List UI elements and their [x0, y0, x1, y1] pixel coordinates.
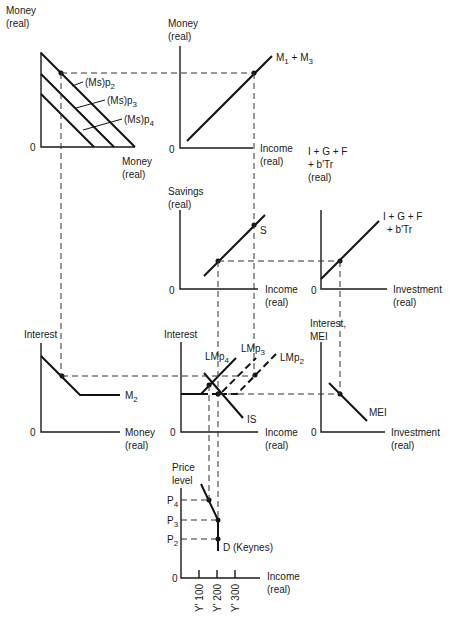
axes [180, 210, 258, 289]
y-axis-label: Interest, [310, 318, 346, 329]
origin-label: 0 [30, 427, 36, 438]
lm-p2-point [253, 373, 258, 378]
y-axis-label: Price [172, 462, 195, 473]
panel-aggregate-demand: Price level 0 Income (real) Y' 100 Y' 20… [167, 462, 300, 612]
connecting-guides [61, 73, 340, 520]
curve-label-mei: MEI [369, 407, 387, 418]
axes [321, 342, 385, 432]
curve-label-ms-p2: (Ms)p2 [85, 77, 116, 91]
panel-money-supply: Money (real) 0 Money (real) (Ms)p2 (Ms)p… [6, 5, 155, 180]
x-axis-label-unit: (real) [267, 584, 290, 595]
curve-label-ms-p3: (Ms)p3 [107, 95, 138, 109]
price-label-p3: P3 [167, 515, 179, 529]
x-axis-label-unit: (real) [265, 440, 288, 451]
x-axis-label: Investment [393, 284, 442, 295]
curve-label-lm-p3: LMp3 [241, 343, 265, 357]
x-axis-label: Income [265, 284, 298, 295]
origin-label: 0 [169, 144, 175, 155]
axes [181, 488, 260, 578]
y-axis-label: I + G + F [308, 146, 347, 157]
x-axis-label: Income [260, 143, 293, 154]
injections-line [321, 221, 379, 279]
panel-liquidity-preference: Interest 0 Money (real) M2 [24, 329, 155, 451]
origin-label: 0 [169, 285, 175, 296]
y-axis-label-2: level [172, 475, 193, 486]
origin-label: 0 [172, 573, 178, 584]
panel-transactions-demand: Money (real) 0 Income (real) M1 + M3 [168, 18, 314, 167]
y-axis-label: Interest [24, 329, 58, 340]
x-axis-label-unit: (real) [393, 297, 416, 308]
origin-label: 0 [311, 285, 317, 296]
curve-label-lm-p2: LMp2 [280, 352, 304, 366]
tick-label-200: Y' 200 [212, 584, 223, 612]
price-label-p4: P4 [167, 495, 179, 509]
curve-label-is: IS [247, 414, 257, 425]
y-axis-label-2: + b'Tr [308, 159, 334, 170]
x-axis-label: Income [267, 571, 300, 582]
tick-label-300: Y' 300 [230, 584, 241, 612]
x-axis-label-unit: (real) [122, 169, 145, 180]
y-axis-label: Money [168, 18, 198, 29]
curve-label-injections-2: + b'Tr [387, 224, 413, 235]
curve-label-m2: M2 [125, 390, 138, 404]
keynesian-is-lm-diagram: Money (real) 0 Money (real) (Ms)p2 (Ms)p… [0, 0, 464, 630]
panel-savings: Savings (real) 0 Income (real) S [168, 186, 298, 308]
callout-arrow [72, 82, 83, 86]
y-axis-label-unit: (real) [168, 199, 191, 210]
keynes-demand-curve [201, 484, 218, 551]
curve-label-d-keynes: D (Keynes) [223, 542, 273, 553]
y-axis-label: Money [6, 5, 36, 16]
x-axis-label: Investment [391, 427, 440, 438]
x-axis-label-unit: (real) [125, 440, 148, 451]
curve-label-m1-m3: M1 + M3 [276, 52, 314, 66]
curve-label-s: S [260, 225, 267, 236]
y-axis-label-unit: (real) [6, 18, 29, 29]
curve-label-lm-p4: LMp4 [205, 351, 229, 365]
x-axis-label-unit: (real) [265, 297, 288, 308]
price-label-p2: P2 [167, 534, 179, 548]
y-axis-label: Savings [168, 186, 204, 197]
tick-label-100: Y' 100 [194, 584, 205, 612]
y-axis-label-unit: (real) [168, 31, 191, 42]
curve-label-injections: I + G + F [383, 211, 422, 222]
origin-label: 0 [311, 427, 317, 438]
y-axis-label-unit: (real) [308, 172, 331, 183]
panel-investment-injections: I + G + F + b'Tr (real) 0 Investment (re… [308, 146, 442, 308]
x-axis-label: Money [122, 156, 152, 167]
axes [41, 343, 120, 432]
is-curve [204, 373, 243, 418]
y-axis-label-2: MEI [310, 331, 328, 342]
y-axis-label: Interest [164, 329, 198, 340]
mei-curve [329, 383, 367, 421]
ms-p4-line [41, 94, 94, 147]
m1-m3-line [187, 56, 272, 141]
origin-label: 0 [170, 427, 176, 438]
x-axis-label-unit: (real) [391, 440, 414, 451]
x-axis-label-unit: (real) [260, 156, 283, 167]
x-axis-label: Money [125, 427, 155, 438]
origin-label: 0 [30, 142, 36, 153]
panel-is-lm: Interest 0 Income (real) LMp4 LMp3 LMp2 … [164, 329, 304, 451]
axes [180, 46, 253, 148]
m2-curve [41, 356, 120, 395]
panel-mei: Interest, MEI 0 Investment (real) MEI [310, 318, 440, 451]
x-axis-label: Income [265, 427, 298, 438]
curve-label-ms-p4: (Ms)p4 [124, 114, 155, 128]
